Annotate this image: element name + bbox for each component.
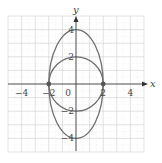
y-tick-label: −2: [61, 106, 74, 116]
y-tick-label: −4: [61, 133, 75, 143]
x-tick-label: 2: [100, 88, 106, 98]
x-tick-label: −2: [42, 88, 55, 98]
y-tick-label: 4: [68, 25, 74, 35]
x-axis-label: x: [150, 78, 156, 89]
intersection-point: [46, 82, 51, 87]
y-axis-arrow-icon: [74, 16, 79, 22]
x-tick-label: 0: [65, 88, 71, 98]
y-tick-label: 2: [68, 52, 74, 62]
intersection-point: [101, 82, 106, 87]
x-axis-arrow-icon: [142, 82, 148, 87]
x-tick-label: 4: [128, 88, 134, 98]
graph-figure: x y −4−202442−2−4: [0, 0, 162, 163]
y-axis-label: y: [72, 4, 79, 15]
axes: x y: [8, 4, 156, 151]
x-tick-label: −4: [15, 88, 29, 98]
